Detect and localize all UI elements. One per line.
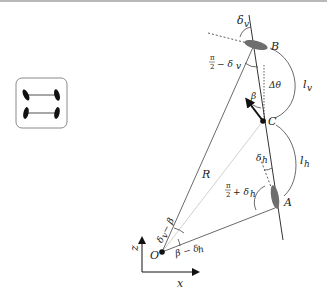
car-icon: [16, 78, 67, 128]
svg-text:2: 2: [226, 191, 230, 199]
point-O: [159, 249, 165, 255]
angle-pi2-plus-delta-h-arc: [254, 186, 265, 210]
label-O: O: [150, 249, 159, 262]
svg-text:− β: − β: [160, 216, 176, 234]
svg-text:δ: δ: [237, 14, 244, 27]
label-delta-theta: Δθ: [268, 80, 281, 90]
front-wheel-B-icon: [243, 38, 268, 52]
angle-beta-minus-delta-h-arc: [178, 239, 180, 246]
arc-lh: [276, 125, 296, 196]
svg-text:− δ: − δ: [217, 59, 233, 69]
angle-beta-arc: [253, 105, 261, 108]
label-beta-minus-delta-h: β − δ h: [173, 242, 205, 261]
svg-text:h: h: [197, 244, 205, 255]
svg-text:π: π: [226, 182, 231, 190]
label-delta-h: δ h: [256, 153, 268, 165]
label-l-v: l v: [303, 78, 312, 93]
label-B: B: [270, 40, 279, 53]
label-C: C: [268, 115, 277, 128]
svg-text:β − δ: β − δ: [173, 243, 200, 259]
svg-text:δ: δ: [256, 153, 261, 163]
svg-text:π: π: [210, 54, 215, 62]
label-delta-v: δ v: [237, 14, 249, 29]
svg-text:v: v: [307, 83, 312, 93]
svg-text:+ δ: + δ: [233, 187, 249, 197]
svg-text:h: h: [262, 155, 268, 165]
label-pi2-plus-delta-h: π 2 + δ h: [225, 182, 256, 199]
z-axis-label: z: [128, 245, 141, 252]
label-R: R: [201, 168, 210, 181]
svg-text:2: 2: [210, 63, 214, 71]
angle-delta-h-arc: [264, 168, 272, 170]
label-beta: β: [250, 91, 256, 101]
label-l-h: l h: [300, 154, 310, 169]
x-axis-label: x: [177, 277, 184, 290]
label-delta-v-minus-beta: δ v − β: [155, 216, 178, 245]
kinematics-diagram: z x B C A O R l v l h δ v π: [0, 0, 327, 292]
svg-text:v: v: [244, 19, 249, 29]
svg-text:v: v: [236, 61, 241, 71]
label-A: A: [283, 196, 292, 209]
point-C: [260, 118, 266, 124]
velocity-arrow: [247, 100, 263, 121]
label-pi2-minus-delta-v: π 2 − δ v: [209, 54, 241, 71]
svg-text:h: h: [304, 159, 310, 169]
svg-text:h: h: [250, 189, 256, 199]
rear-wheel-A-icon: [269, 185, 281, 210]
